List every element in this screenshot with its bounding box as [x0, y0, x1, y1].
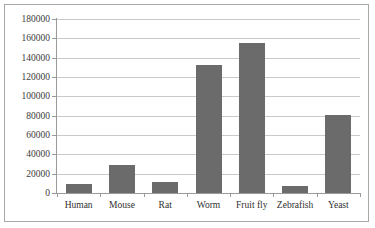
x-axis-tick-mark: [187, 193, 188, 197]
bar-zebrafish[interactable]: [282, 186, 308, 193]
y-axis-tick-label: 100000: [2, 91, 50, 101]
y-axis-tick-label-wrap: 160000: [0, 33, 50, 43]
y-axis-tick-label-wrap: 60000: [0, 130, 50, 140]
bar-mouse[interactable]: [109, 165, 135, 193]
x-axis-label-rat: Rat: [144, 199, 187, 211]
bar-rat[interactable]: [152, 182, 178, 193]
y-axis-tick-label: 180000: [2, 14, 50, 24]
bar-human[interactable]: [66, 184, 92, 193]
x-axis-label-mouse: Mouse: [100, 199, 143, 211]
x-axis-tick-mark: [273, 193, 274, 197]
x-axis-tick-mark: [317, 193, 318, 197]
y-axis-tick-label-wrap: 100000: [0, 91, 50, 101]
bar-fruit-fly[interactable]: [239, 43, 265, 193]
y-axis-tick-label: 60000: [2, 130, 50, 140]
bar-worm[interactable]: [196, 65, 222, 193]
x-axis-line: [57, 193, 360, 194]
gridline: [57, 38, 360, 39]
y-axis-tick-label-wrap: 180000: [0, 14, 50, 24]
y-axis-tick-label-wrap: 20000: [0, 169, 50, 179]
x-axis-label-zebrafish: Zebrafish: [273, 199, 316, 211]
y-axis-tick-label: 20000: [2, 169, 50, 179]
x-axis-label-yeast: Yeast: [317, 199, 360, 211]
gridline: [57, 19, 360, 20]
bar-yeast[interactable]: [325, 115, 351, 193]
y-axis-tick-label-wrap: 140000: [0, 53, 50, 63]
y-axis-tick-label: 120000: [2, 72, 50, 82]
x-axis-label-human: Human: [57, 199, 100, 211]
y-axis-tick-label-wrap: 80000: [0, 111, 50, 121]
y-axis-tick-label: 0: [2, 188, 50, 198]
x-axis-tick-mark: [230, 193, 231, 197]
gridline: [57, 58, 360, 59]
y-axis-tick-label: 40000: [2, 149, 50, 159]
y-axis-tick-label: 80000: [2, 111, 50, 121]
y-axis-tick-label-wrap: 40000: [0, 149, 50, 159]
x-axis-tick-mark: [100, 193, 101, 197]
y-axis-line: [56, 18, 57, 194]
x-axis-tick-mark: [360, 193, 361, 197]
y-axis-tick-label: 140000: [2, 53, 50, 63]
x-axis-tick-mark: [57, 193, 58, 197]
y-axis-tick-label-wrap: 0: [0, 188, 50, 198]
x-axis-tick-mark: [144, 193, 145, 197]
y-axis-tick-label: 160000: [2, 33, 50, 43]
chart-frame: [4, 4, 369, 222]
y-axis-tick-label-wrap: 120000: [0, 72, 50, 82]
x-axis-label-worm: Worm: [187, 199, 230, 211]
x-axis-label-fruit-fly: Fruit fly: [230, 199, 273, 211]
